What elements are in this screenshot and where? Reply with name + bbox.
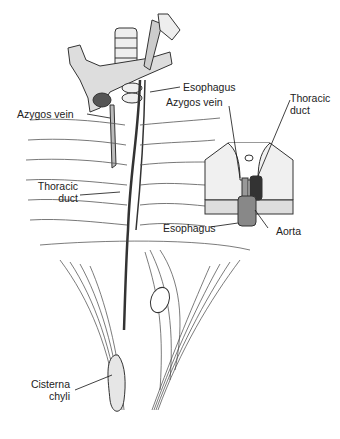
- label-thoracic-duct-inset-2: duct: [290, 104, 310, 116]
- label-esophagus-inset: Esophagus: [163, 222, 216, 234]
- anatomy-illustration: [0, 0, 340, 439]
- label-azygos-vein-inset: Azygos vein: [166, 96, 223, 108]
- label-aorta-inset: Aorta: [276, 225, 301, 237]
- label-thoracic-duct-main-1: Thoracic: [33, 180, 78, 192]
- label-thoracic-duct-main-2: duct: [33, 192, 78, 204]
- label-cisterna-chyli-1: Cisterna: [25, 378, 70, 390]
- label-esophagus-main: Esophagus: [183, 81, 236, 93]
- label-thoracic-duct-inset-1: Thoracic: [290, 92, 330, 104]
- inset-cross-section: [205, 143, 293, 226]
- label-azygos-vein-main: Azygos vein: [17, 108, 74, 120]
- label-cisterna-chyli-2: chyli: [25, 390, 70, 402]
